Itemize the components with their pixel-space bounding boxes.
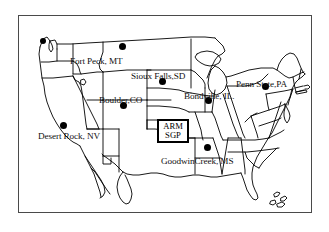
site-label-desert-rock: Desert Rock, NV <box>38 132 100 141</box>
site-label-bondville: Bondville, IL. <box>184 92 234 101</box>
site-label-boulder: Boulder,CO <box>99 96 142 105</box>
figure-container: Fort Peck, MT Sioux Falls,SD Penn State,… <box>0 0 329 232</box>
site-marker-unlabeled-washington <box>40 38 46 44</box>
site-box-arm-sgp-inner: ARM SGP <box>158 120 188 142</box>
site-box-sgp-label: SGP <box>165 131 181 140</box>
site-label-fort-peck: Fort Peck, MT <box>70 57 123 66</box>
site-label-sioux-falls: Sioux Falls,SD <box>131 72 185 81</box>
us-map-outline <box>19 16 313 214</box>
site-marker-goodwin-creek <box>204 144 211 151</box>
site-label-goodwin-creek: GoodwinCreek, MS <box>161 157 233 166</box>
site-marker-desert-rock <box>60 122 67 129</box>
site-label-penn-state: Penn State,PA <box>236 80 287 89</box>
site-marker-fort-peck <box>119 43 126 50</box>
site-box-arm-sgp: ARM SGP <box>157 119 189 143</box>
map-frame: Fort Peck, MT Sioux Falls,SD Penn State,… <box>18 15 312 213</box>
